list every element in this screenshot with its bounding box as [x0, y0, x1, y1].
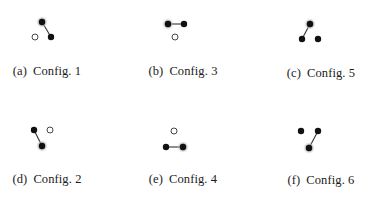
- caption-c: (c)Config. 5: [287, 66, 355, 81]
- highlighted-node: [39, 143, 45, 149]
- filled-node: [31, 127, 37, 133]
- filled-node: [299, 36, 305, 42]
- figure-config-grid: (a)Config. 1 (b)Config. 3 (c)Config. 5 (…: [0, 0, 374, 205]
- highlighted-node: [307, 21, 313, 27]
- caption-label: Config. 2: [33, 172, 81, 186]
- caption-label: Config. 5: [307, 66, 355, 80]
- caption-tag: (e): [149, 172, 163, 186]
- caption-label: Config. 3: [169, 64, 217, 78]
- caption-tag: (d): [12, 172, 27, 186]
- panel-f-diagram: [298, 128, 321, 154]
- open-node: [172, 34, 178, 40]
- filled-node: [163, 144, 169, 150]
- caption-e: (e)Config. 4: [149, 172, 217, 187]
- caption-a: (a)Config. 1: [13, 64, 81, 79]
- filled-node: [298, 128, 304, 134]
- filled-node: [48, 34, 54, 40]
- open-node: [47, 127, 53, 133]
- filled-node: [315, 128, 321, 134]
- caption-tag: (f): [288, 173, 301, 187]
- panel-e-diagram: [163, 128, 189, 153]
- caption-tag: (b): [148, 64, 163, 78]
- panel-c-diagram: [299, 18, 321, 42]
- highlighted-node: [180, 144, 186, 150]
- caption-label: Config. 6: [306, 173, 354, 187]
- highlighted-node: [39, 19, 45, 25]
- highlighted-node: [165, 21, 171, 27]
- open-node: [171, 128, 177, 134]
- caption-tag: (c): [287, 66, 301, 80]
- caption-f: (f)Config. 6: [288, 173, 355, 188]
- panel-b-diagram: [162, 18, 187, 40]
- filled-node: [181, 21, 187, 27]
- panel-d-diagram: [31, 127, 53, 152]
- caption-b: (b)Config. 3: [148, 64, 217, 79]
- caption-d: (d)Config. 2: [12, 172, 81, 187]
- panel-a-diagram: [32, 16, 54, 40]
- open-node: [32, 34, 38, 40]
- highlighted-node: [306, 145, 312, 151]
- filled-node: [315, 36, 321, 42]
- caption-label: Config. 4: [169, 172, 217, 186]
- caption-tag: (a): [13, 64, 27, 78]
- caption-label: Config. 1: [33, 64, 81, 78]
